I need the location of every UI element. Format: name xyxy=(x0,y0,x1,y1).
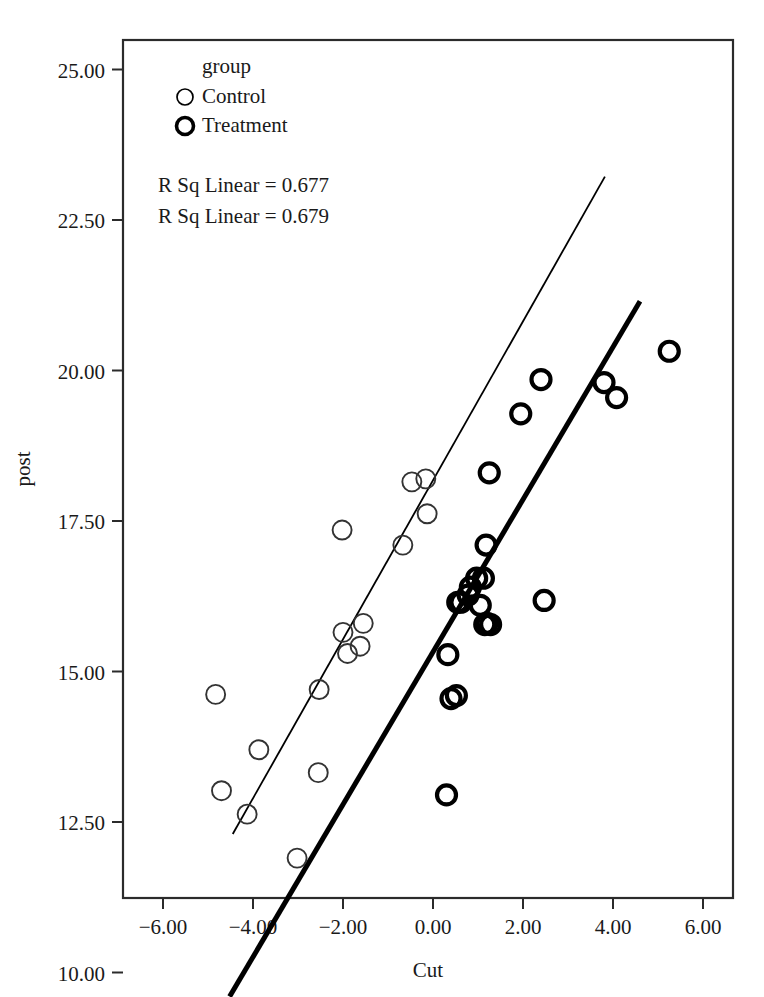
data-point-treatment xyxy=(477,536,496,555)
data-point-control xyxy=(418,504,437,523)
data-point-control xyxy=(402,472,421,491)
data-point-control xyxy=(354,614,373,633)
legend-marker-control xyxy=(177,89,193,105)
x-tick-label: 0.00 xyxy=(415,915,452,939)
legend-title: group xyxy=(202,54,251,78)
data-point-control xyxy=(309,763,328,782)
data-point-treatment xyxy=(511,404,530,423)
data-point-treatment xyxy=(438,645,457,664)
x-tick-label: 4.00 xyxy=(595,915,632,939)
x-axis-title: Cut xyxy=(413,958,444,982)
data-points xyxy=(206,342,679,868)
x-tick-label: 6.00 xyxy=(685,915,722,939)
x-tick-label: −2.00 xyxy=(319,915,368,939)
data-point-treatment xyxy=(437,785,456,804)
plot-canvas: −6.00−4.00−2.000.002.004.006.0025.0022.5… xyxy=(0,0,764,997)
fit-line-treatment xyxy=(230,301,640,996)
x-tick-label: −6.00 xyxy=(139,915,188,939)
legend-label-treatment: Treatment xyxy=(202,113,288,137)
y-tick-label: 15.00 xyxy=(58,661,105,685)
y-tick-label: 17.50 xyxy=(58,510,105,534)
data-point-control xyxy=(416,469,435,488)
annotation-rsq-control: R Sq Linear = 0.677 xyxy=(158,173,329,197)
data-point-treatment xyxy=(480,463,499,482)
y-tick-label: 12.50 xyxy=(58,811,105,835)
y-tick-label: 20.00 xyxy=(58,360,105,384)
data-point-control xyxy=(333,521,352,540)
fit-lines xyxy=(230,177,640,997)
x-tick-label: 2.00 xyxy=(505,915,542,939)
data-point-treatment xyxy=(532,370,551,389)
scatter-plot-figure: −6.00−4.00−2.000.002.004.006.0025.0022.5… xyxy=(0,0,764,997)
y-axis-title: post xyxy=(11,451,35,486)
data-point-control xyxy=(249,740,268,759)
data-point-control xyxy=(212,781,231,800)
y-tick-label: 10.00 xyxy=(58,962,105,986)
data-point-control xyxy=(206,685,225,704)
annotation-rsq-treatment: R Sq Linear = 0.679 xyxy=(158,204,329,228)
data-point-control xyxy=(288,849,307,868)
data-point-treatment xyxy=(660,342,679,361)
legend-marker-treatment xyxy=(177,118,194,135)
axis-tick-labels: −6.00−4.00−2.000.002.004.006.0025.0022.5… xyxy=(58,59,722,986)
data-point-treatment xyxy=(535,591,554,610)
data-point-treatment xyxy=(607,388,626,407)
legend-label-control: Control xyxy=(202,84,266,108)
annotations: R Sq Linear = 0.677R Sq Linear = 0.679 xyxy=(158,173,329,228)
legend: groupControlTreatment xyxy=(177,54,288,137)
y-tick-label: 25.00 xyxy=(58,59,105,83)
y-tick-label: 22.50 xyxy=(58,209,105,233)
fit-line-control xyxy=(233,177,605,834)
